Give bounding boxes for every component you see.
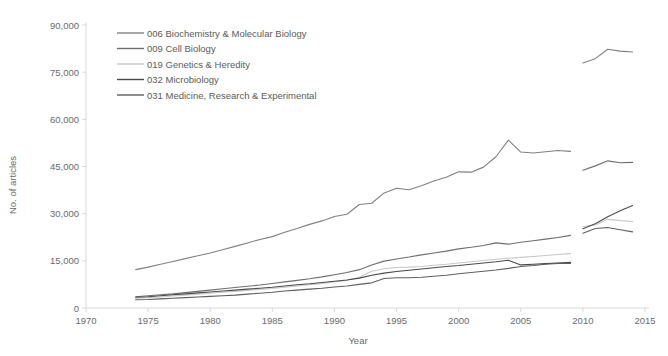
legend-label-1: 009 Cell Biology — [147, 43, 216, 54]
x-axis-title: Year — [348, 335, 367, 346]
series-line-1-seg-1 — [583, 161, 633, 170]
x-tick-label: 2010 — [572, 315, 593, 326]
series-line-3-seg-1 — [583, 205, 633, 228]
y-axis: 015,00030,00045,00060,00075,00090,000 — [50, 20, 86, 314]
series-line-4-seg-1 — [583, 228, 633, 234]
legend-label-3: 032 Microbiology — [147, 74, 219, 85]
x-tick-label: 1970 — [75, 315, 96, 326]
chart-legend: 006 Biochemistry & Molecular Biology009 … — [117, 28, 317, 101]
x-tick-label: 1990 — [324, 315, 345, 326]
x-tick-label: 1985 — [262, 315, 283, 326]
series-line-0-seg-0 — [136, 140, 571, 270]
legend-label-0: 006 Biochemistry & Molecular Biology — [147, 28, 307, 39]
series-line-3-seg-0 — [136, 260, 571, 297]
y-tick-label: 30,000 — [50, 208, 79, 219]
x-axis: 1970197519801985199019952000200520102015 — [75, 308, 655, 326]
y-tick-label: 15,000 — [50, 255, 79, 266]
y-axis-title: No. of articles — [7, 156, 18, 214]
series-line-0-seg-1 — [583, 49, 633, 63]
series-line-1-seg-0 — [136, 235, 571, 296]
x-tick-label: 2000 — [448, 315, 469, 326]
y-tick-label: 0 — [74, 303, 79, 314]
x-tick-label: 2005 — [510, 315, 531, 326]
x-tick-label: 2015 — [634, 315, 655, 326]
legend-label-2: 019 Genetics & Heredity — [147, 59, 250, 70]
legend-label-4: 031 Medicine, Research & Experimental — [147, 90, 317, 101]
y-tick-label: 45,000 — [50, 161, 79, 172]
chart-canvas: 015,00030,00045,00060,00075,00090,000 19… — [0, 0, 668, 356]
y-tick-label: 90,000 — [50, 20, 79, 31]
series-layer — [136, 49, 633, 300]
x-tick-label: 1995 — [386, 315, 407, 326]
y-tick-label: 75,000 — [50, 67, 79, 78]
x-tick-label: 1980 — [200, 315, 221, 326]
line-chart: 015,00030,00045,00060,00075,00090,000 19… — [0, 0, 668, 356]
x-tick-label: 1975 — [138, 315, 159, 326]
y-tick-label: 60,000 — [50, 114, 79, 125]
